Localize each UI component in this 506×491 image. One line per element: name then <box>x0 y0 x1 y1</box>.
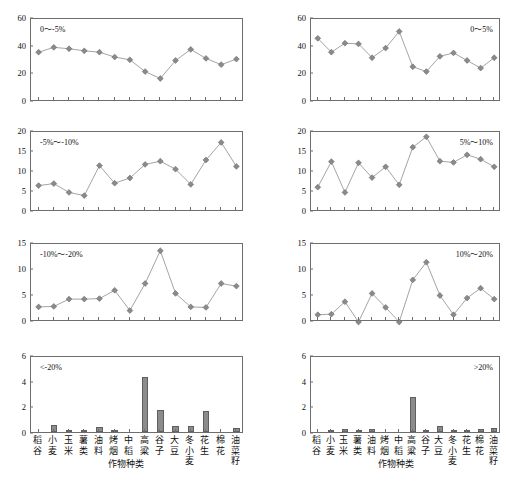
x-axis-tick-mark <box>53 429 54 433</box>
label-char: 生 <box>197 446 213 457</box>
x-axis-tick-mark <box>493 317 494 321</box>
y-axis-tick-label: 5 <box>302 187 306 196</box>
y-axis-tick-label: 40 <box>18 41 27 50</box>
x-axis-tick-mark <box>344 317 345 321</box>
x-axis-tick-mark <box>493 207 494 211</box>
label-char: 菜 <box>227 446 243 457</box>
panel-range-label: <-20% <box>40 363 62 372</box>
y-axis-tick-label: 0 <box>22 429 26 438</box>
y-axis-tick-label: 2 <box>22 403 26 412</box>
x-axis-tick-mark <box>480 429 481 433</box>
panel-range-label: 5%～10% <box>460 138 493 147</box>
y-axis-tick-label: 20 <box>298 127 307 136</box>
x-axis-tick-mark <box>344 429 345 433</box>
x-axis-tick-mark <box>190 317 191 321</box>
x-axis-category-labels: 稻谷小麦玉米薯类油料烤烟中稻高粱谷子大豆冬小麦花生棉花油菜籽 <box>310 435 500 475</box>
y-axis-tick-label: 10 <box>298 265 307 274</box>
x-axis-tick-mark <box>235 429 236 433</box>
x-axis-tick-mark <box>53 317 54 321</box>
data-point-marker <box>81 48 87 54</box>
data-point-marker <box>36 304 42 310</box>
y-axis-tick-mark <box>310 73 313 74</box>
x-axis-tick-mark <box>330 317 331 321</box>
y-axis-tick-label: 15 <box>18 239 27 248</box>
x-axis-category-label: 中稻 <box>121 435 137 456</box>
label-char: 麦 <box>182 456 198 467</box>
data-point-marker <box>315 312 321 318</box>
x-axis-tick-mark <box>68 97 69 101</box>
label-char: 玉 <box>60 435 76 446</box>
x-axis-tick-mark <box>330 207 331 211</box>
x-axis-title: 作物种类 <box>108 459 144 469</box>
label-char: 薯 <box>75 435 91 446</box>
x-axis-tick-mark <box>129 97 130 101</box>
x-axis-tick-mark <box>358 207 359 211</box>
x-axis-tick-mark <box>114 317 115 321</box>
x-axis-tick-mark <box>53 97 54 101</box>
x-axis-tick-mark <box>175 97 176 101</box>
data-point-marker <box>157 158 163 164</box>
x-axis-tick-mark <box>144 207 145 211</box>
label-char: 高 <box>136 435 152 446</box>
label-char: 油 <box>485 435 501 446</box>
data-point-marker <box>97 296 103 302</box>
x-axis-tick-mark <box>68 317 69 321</box>
y-axis-tick-mark <box>30 45 33 46</box>
data-point-marker <box>342 190 348 196</box>
series-line <box>318 262 494 322</box>
data-point-marker <box>203 56 209 62</box>
y-axis-tick-mark <box>310 191 313 192</box>
y-axis-tick-mark <box>30 101 33 102</box>
y-axis-tick-label: 20 <box>18 127 27 136</box>
y-axis-tick-label: 40 <box>298 41 307 50</box>
x-axis-tick-mark <box>425 317 426 321</box>
y-axis-tick-label: 0 <box>302 97 306 106</box>
y-axis-tick-label: 6 <box>22 352 26 361</box>
data-point-marker <box>233 56 239 62</box>
x-axis-tick-mark <box>114 429 115 433</box>
data-point-marker <box>36 183 42 189</box>
x-axis-tick-mark <box>38 429 39 433</box>
x-axis-tick-mark <box>493 97 494 101</box>
chart-panel-8: 0246>20% <box>310 356 500 433</box>
y-axis-tick-mark <box>30 356 33 357</box>
label-char: 类 <box>75 446 91 457</box>
y-axis-tick-label: 10 <box>18 265 27 274</box>
x-axis-tick-mark <box>235 207 236 211</box>
label-char: 大 <box>167 435 183 446</box>
x-axis-category-label: 高粱 <box>136 435 152 456</box>
label-char: 豆 <box>167 446 183 457</box>
x-axis-tick-mark <box>358 429 359 433</box>
bar <box>423 430 429 432</box>
x-axis-category-label: 薯类 <box>75 435 91 456</box>
label-char: 棉 <box>212 435 228 446</box>
x-axis-tick-mark <box>466 317 467 321</box>
data-point-marker <box>112 54 118 60</box>
y-axis-tick-mark <box>30 191 33 192</box>
x-axis-tick-mark <box>453 97 454 101</box>
y-axis-tick-label: 0 <box>302 207 306 216</box>
x-axis-tick-mark <box>190 97 191 101</box>
x-axis-tick-mark <box>439 207 440 211</box>
x-axis-tick-mark <box>175 317 176 321</box>
data-point-marker <box>233 283 239 289</box>
data-point-marker <box>437 158 443 164</box>
data-point-marker <box>464 58 470 64</box>
x-axis-tick-mark <box>235 317 236 321</box>
x-axis-category-label: 稻谷 <box>30 435 46 456</box>
y-axis-tick-label: 6 <box>302 352 306 361</box>
bar <box>96 427 102 432</box>
y-axis-tick-mark <box>30 211 33 212</box>
x-axis-tick-mark <box>98 317 99 321</box>
y-axis-tick-mark <box>310 407 313 408</box>
x-axis-tick-mark <box>412 429 413 433</box>
chart-panel-7: 0246<-20% <box>30 356 243 433</box>
y-axis-tick-mark <box>310 321 313 322</box>
y-axis-tick-mark <box>30 151 33 152</box>
x-axis-tick-mark <box>466 207 467 211</box>
x-axis-tick-mark <box>68 207 69 211</box>
data-point-marker <box>451 160 457 166</box>
x-axis-tick-mark <box>358 317 359 321</box>
x-axis-tick-mark <box>144 317 145 321</box>
x-axis-tick-mark <box>425 97 426 101</box>
